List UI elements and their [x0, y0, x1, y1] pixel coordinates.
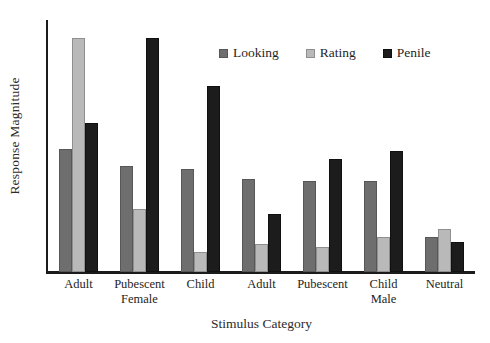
bar-looking — [120, 166, 133, 272]
legend-item-rating: Rating — [306, 45, 356, 61]
bar-penile — [268, 214, 281, 272]
x-tick-secondary: Male — [338, 292, 430, 307]
bar-rating — [377, 237, 390, 272]
x-tick-label: Neutral — [399, 277, 490, 292]
bar-group — [181, 20, 220, 272]
bar-looking — [425, 237, 438, 272]
bar-rating — [133, 209, 146, 272]
x-tick-secondary: Female — [94, 292, 186, 307]
y-axis-title: Response Magnitude — [2, 0, 28, 272]
x-axis-title: Stimulus Category — [48, 316, 475, 332]
legend-label: Looking — [233, 45, 279, 61]
legend-item-penile: Penile — [383, 45, 431, 61]
bar-group — [425, 20, 464, 272]
x-tick-primary: Child — [187, 277, 215, 291]
x-tick-primary: Adult — [247, 277, 275, 291]
bar-penile — [329, 159, 342, 272]
legend-label: Penile — [397, 45, 431, 61]
x-tick-primary: Neutral — [426, 277, 463, 291]
looking-swatch-icon — [219, 49, 228, 58]
legend-label: Rating — [320, 45, 356, 61]
bar-looking — [59, 149, 72, 272]
rating-swatch-icon — [306, 49, 315, 58]
y-axis-title-text: Response Magnitude — [7, 77, 23, 194]
bar-penile — [451, 242, 464, 272]
bar-looking — [303, 181, 316, 272]
bar-rating — [194, 252, 207, 272]
bar-looking — [364, 181, 377, 272]
bar-rating — [72, 38, 85, 272]
penile-swatch-icon — [383, 49, 392, 58]
bar-rating — [255, 244, 268, 272]
bar-penile — [390, 151, 403, 272]
chart-legend: LookingRatingPenile — [219, 45, 431, 61]
bar-rating — [316, 247, 329, 272]
bar-penile — [207, 86, 220, 272]
x-tick-primary: Child — [370, 277, 398, 291]
bar-group — [59, 20, 98, 272]
x-tick-primary: Adult — [64, 277, 92, 291]
bar-rating — [438, 229, 451, 272]
bar-looking — [181, 169, 194, 272]
x-axis-tick-labels: AdultPubescentFemaleChildAdultPubescentC… — [48, 277, 475, 311]
bar-penile — [85, 123, 98, 272]
bar-penile — [146, 38, 159, 272]
bar-looking — [242, 179, 255, 272]
legend-item-looking: Looking — [219, 45, 279, 61]
bar-group — [120, 20, 159, 272]
bar-chart: Response Magnitude LookingRatingPenile A… — [0, 0, 490, 343]
